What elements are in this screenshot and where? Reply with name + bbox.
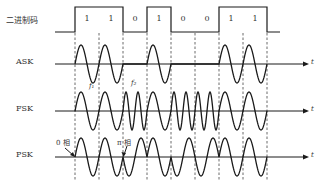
bit-value: 1 (84, 14, 89, 23)
f1-label: f₁ (89, 82, 94, 90)
zero-phase-label: 0 相 (56, 137, 70, 147)
fsk-t-label: t (311, 105, 314, 113)
pi-phase-label: π 相 (117, 137, 131, 147)
psk-t-label: t (311, 151, 314, 159)
psk-axis-arrow-icon (303, 155, 309, 160)
fsk-axis-arrow-icon (303, 109, 309, 114)
modulation-diagram (0, 0, 319, 191)
binary-code-label: 二进制码 (6, 14, 38, 25)
pi-phase-arrowhead-icon (122, 152, 127, 157)
bit-value: 1 (156, 14, 161, 23)
bit-value: 0 (204, 14, 209, 23)
bit-value: 1 (108, 14, 113, 23)
ask-t-label: t (311, 58, 314, 66)
bit-value: 0 (180, 14, 185, 23)
f2-label: f₂ (131, 79, 136, 87)
fsk-label: FSK (16, 104, 33, 113)
bit-value: 0 (132, 14, 137, 23)
ask-axis-arrow-icon (303, 62, 309, 67)
bit-value: 1 (228, 14, 233, 23)
ask-label: ASK (16, 57, 33, 66)
bit-value: 1 (252, 14, 257, 23)
psk-label: PSK (16, 150, 33, 159)
